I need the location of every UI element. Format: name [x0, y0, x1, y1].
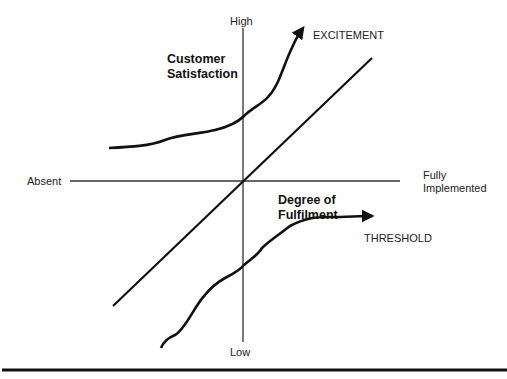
- axis-label-low: Low: [230, 346, 250, 359]
- axis-label-absent: Absent: [27, 175, 61, 188]
- axis-label-high: High: [230, 15, 253, 28]
- x-title-line1: Degree of: [278, 193, 336, 208]
- excitement-curve: [109, 28, 303, 148]
- threshold-curve: [161, 216, 372, 348]
- y-title-line2: Satisfaction: [167, 67, 238, 82]
- y-title-line1: Customer: [167, 52, 225, 67]
- threshold-label: THRESHOLD: [364, 232, 432, 245]
- excitement-label: EXCITEMENT: [313, 29, 384, 42]
- x-title-line2: Fulfilment: [278, 208, 338, 223]
- axis-label-fully: Fully: [423, 169, 446, 182]
- axis-label-implemented: Implemented: [423, 182, 487, 195]
